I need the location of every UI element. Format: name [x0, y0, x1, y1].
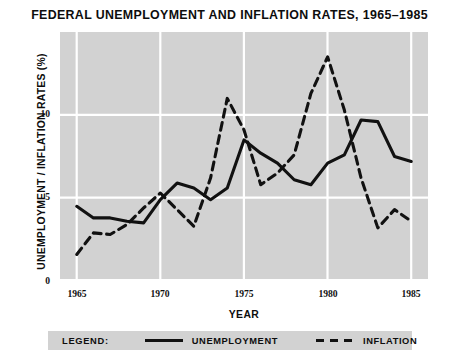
y-axis-title: UNEMPLOYMENT / INFLATION RATES (%) [36, 37, 47, 287]
legend-title: LEGEND: [62, 336, 109, 346]
x-axis-tick-label: 1965 [47, 288, 107, 299]
x-axis-tick-label: 1975 [214, 288, 274, 299]
plot-area [60, 32, 428, 281]
x-axis-tick-label: 1970 [130, 288, 190, 299]
y-axis-tick-label: 0 [4, 276, 50, 286]
gridlines [60, 32, 428, 281]
y-axis-tick-label: 10 [4, 109, 50, 119]
legend: LEGEND: UNEMPLOYMENT INFLATION [48, 331, 412, 350]
x-axis-tick-label: 1985 [381, 288, 441, 299]
x-axis-tick-label: 1980 [298, 288, 358, 299]
legend-label-unemployment: UNEMPLOYMENT [192, 336, 278, 346]
solid-line-swatch-icon [145, 339, 183, 342]
legend-entry-inflation: INFLATION [316, 336, 417, 346]
y-axis-tick-label: 5 [4, 192, 50, 202]
dashed-line-swatch-icon [316, 339, 354, 342]
legend-entry-unemployment: UNEMPLOYMENT [145, 336, 278, 346]
plot-svg [60, 32, 428, 281]
x-axis-title: YEAR [60, 309, 428, 320]
chart-title: FEDERAL UNEMPLOYMENT AND INFLATION RATES… [0, 8, 459, 22]
legend-label-inflation: INFLATION [363, 336, 417, 346]
